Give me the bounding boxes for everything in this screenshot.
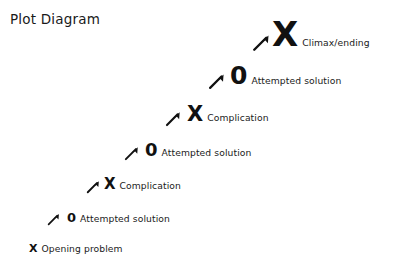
- plot-stage: XComplication: [104, 177, 181, 192]
- stage-label: Complication: [120, 181, 181, 190]
- stage-symbol-x: X: [187, 104, 203, 125]
- arrow-northeast-icon: [208, 73, 225, 90]
- stage-label: Attempted solution: [162, 148, 252, 157]
- plot-stage: 0Attempted solution: [145, 141, 251, 159]
- page-title: Plot Diagram: [10, 11, 100, 27]
- stage-label: Opening problem: [41, 244, 122, 253]
- arrow-northeast-icon: [124, 146, 139, 161]
- plot-diagram-canvas: Plot Diagram XOpening problem0Attempted …: [0, 0, 400, 273]
- arrow-northeast-icon: [165, 111, 181, 127]
- stage-label: Complication: [207, 113, 268, 122]
- arrow-northeast-icon: [47, 213, 60, 226]
- stage-label: Attempted solution: [80, 214, 170, 223]
- plot-stage: 0Attempted solution: [230, 63, 341, 88]
- stage-symbol-x: X: [272, 17, 298, 51]
- plot-stage: XClimax/ending: [272, 17, 370, 51]
- stage-label: Climax/ending: [302, 38, 369, 47]
- stage-label: Attempted solution: [251, 76, 341, 85]
- plot-stage: XComplication: [187, 104, 269, 125]
- stage-symbol-o: 0: [145, 141, 158, 159]
- plot-stage: XOpening problem: [29, 243, 123, 254]
- stage-symbol-x: X: [104, 177, 116, 192]
- plot-stage: 0Attempted solution: [67, 211, 170, 224]
- arrow-northeast-icon: [86, 180, 100, 194]
- arrow-northeast-icon: [252, 34, 270, 52]
- stage-symbol-o: 0: [67, 211, 76, 224]
- stage-symbol-o: 0: [230, 63, 247, 88]
- stage-symbol-x: X: [29, 243, 37, 254]
